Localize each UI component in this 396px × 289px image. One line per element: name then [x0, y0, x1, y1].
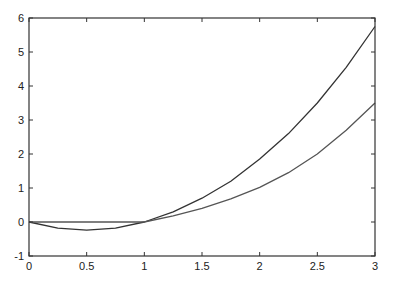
plot-frame: [29, 18, 375, 256]
y-tick-label: 5: [18, 46, 24, 58]
x-tick-label: 2.5: [310, 260, 325, 272]
series-layer: [29, 27, 375, 231]
x-tick-label: 1: [141, 260, 147, 272]
y-tick-label: 4: [18, 80, 24, 92]
y-tick-label: 3: [18, 114, 24, 126]
series-line-2: [29, 103, 375, 222]
x-tick-label: 2: [257, 260, 263, 272]
y-tick-label: -1: [14, 250, 24, 262]
y-tick-label: 1: [18, 182, 24, 194]
y-tick-label: 0: [18, 216, 24, 228]
x-tick-label: 1.5: [194, 260, 209, 272]
line-chart: 00.511.522.53-10123456: [0, 0, 396, 289]
x-tick-label: 3: [372, 260, 378, 272]
x-tick-label: 0.5: [79, 260, 94, 272]
y-tick-label: 6: [18, 12, 24, 24]
axis-layer: 00.511.522.53-10123456: [14, 12, 378, 272]
series-line-1: [29, 27, 375, 231]
y-tick-label: 2: [18, 148, 24, 160]
x-tick-label: 0: [26, 260, 32, 272]
